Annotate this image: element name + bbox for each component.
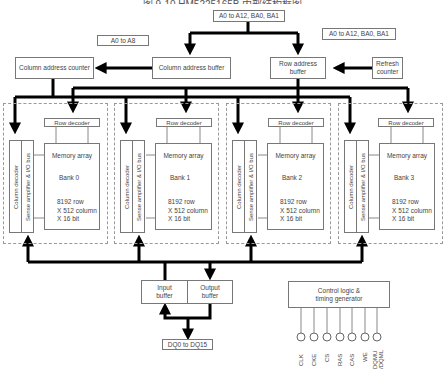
column-address-counter: Column address counter [15,57,94,79]
control-logic-timing-generator: Control logic & timing generator [288,281,390,308]
bank-3-label: Bank 3 [394,174,414,181]
row-address-buffer: Row address buffer [270,57,326,79]
column-address-buffer: Column address buffer [152,57,231,79]
bank-2-sense-amplifier: Sense amplifier & I/O bus [244,140,257,233]
signal-clk: CLK [298,354,304,366]
bank-0-memory-array: Memory array Bank 0 8192 rowX 512 column… [44,143,100,230]
bank-0-sense-amplifier: Sense amplifier & I/O bus [21,140,34,233]
bank-2-label: Bank 2 [282,174,302,181]
bank-1-memory-array: Memory array Bank 1 8192 rowX 512 column… [155,143,212,230]
bank-1-label: Bank 1 [170,174,190,181]
bank-3-sense-amplifier: Sense amplifier & I/O bus [356,140,369,233]
input-buffer: Input buffer [141,280,188,304]
bank-3-row-decoder: Row decoder [378,118,434,127]
address-input-right: A0 to A12, BA0, BA1 [322,28,396,40]
bank-0-row-decoder: Row decoder [44,118,100,127]
signal-cs: CS [324,354,330,362]
bank-2-memory-array: Memory array Bank 2 8192 rowX 512 column… [267,143,324,230]
bank-2-row-decoder: Row decoder [268,118,324,127]
dq-pins: DQ0 to DQ15 [162,339,213,350]
bank-3-memory-array: Memory array Bank 3 8192 rowX 512 column… [379,143,435,230]
address-input-left: A0 to A8 [97,35,149,46]
output-buffer: Output buffer [187,280,233,304]
signal-dqmu-dqml: DQMU /DQML [372,341,384,369]
bank-1-row-decoder: Row decoder [156,118,212,127]
refresh-counter: Refresh counter [372,57,403,79]
bank-1-sense-amplifier: Sense amplifier & I/O bus [132,140,145,233]
signal-ras: RAS [337,354,343,366]
address-input-top: A0 to A12, BA0, BA1 [213,10,285,22]
signal-we: WE [362,352,368,362]
bank-0-label: Bank 0 [59,174,79,181]
signal-cas: CAS [349,354,355,366]
signal-cke: CKE [311,354,317,366]
